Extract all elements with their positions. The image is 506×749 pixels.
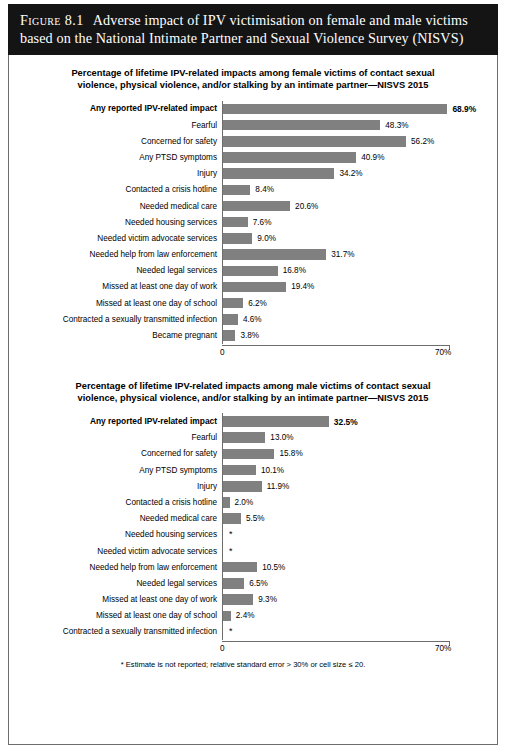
- bar: [223, 201, 290, 212]
- bar-value-label: 5.5%: [241, 514, 265, 523]
- figure-body-frame: Percentage of lifetime IPV-related impac…: [8, 55, 498, 745]
- bar: [223, 104, 447, 115]
- bar-value-label: 9.3%: [253, 595, 277, 604]
- bar-category-label: Missed at least one day of work: [9, 595, 222, 604]
- bar-value-label: 20.6%: [290, 202, 318, 211]
- bar: [223, 481, 262, 492]
- bar: [223, 465, 256, 476]
- chart-panel-female: Percentage of lifetime IPV-related impac…: [9, 55, 497, 358]
- bar-row: Fearful13.0%: [9, 430, 497, 446]
- bar: [223, 562, 257, 573]
- bar: [223, 314, 238, 325]
- bar-category-label: Fearful: [9, 433, 222, 442]
- bar-track: 9.3%: [222, 592, 497, 608]
- chart-title-female-line-2: violence, physical violence, and/or stal…: [51, 79, 455, 91]
- bar-track: 31.7%: [222, 247, 497, 263]
- bar-value-label: 48.3%: [380, 121, 408, 130]
- bar-row: Needed medical care5.5%: [9, 511, 497, 527]
- axis-tick-labels-female: 0 70%: [222, 346, 450, 358]
- bar-value-label: 6.5%: [244, 579, 268, 588]
- bar-value-label: 4.6%: [238, 315, 262, 324]
- bar-value-label: 16.8%: [278, 266, 306, 275]
- axis-line-wrap: 0 70%: [222, 641, 497, 654]
- bar-track: 6.2%: [222, 295, 497, 311]
- x-axis-female: 0 70%: [9, 345, 497, 358]
- bar-row: Needed help from law enforcement10.5%: [9, 559, 497, 575]
- bar-row: Needed medical care20.6%: [9, 198, 497, 214]
- bar-category-label: Needed victim advocate services: [9, 547, 222, 556]
- bar-track: 9.0%: [222, 230, 497, 246]
- bar-category-label: Needed medical care: [9, 514, 222, 523]
- figure-title-line-2: based on the National Intimate Partner a…: [20, 29, 488, 47]
- bar: [223, 578, 244, 589]
- bar: [223, 168, 334, 179]
- figure-title-banner: Figure 8.1Adverse impact of IPV victimis…: [8, 4, 498, 55]
- bar-track: 20.6%: [222, 198, 497, 214]
- bar-category-label: Any PTSD symptoms: [9, 466, 222, 475]
- bar-category-label: Contacted a crisis hotline: [9, 185, 222, 194]
- bar-row: Became pregnant3.8%: [9, 327, 497, 343]
- bar-value-label: 3.8%: [235, 331, 259, 340]
- chart-title-male-line-2: violence, physical violence, and/or stal…: [51, 392, 455, 404]
- bar-row: Needed legal services16.8%: [9, 263, 497, 279]
- bar-track: 32.5%: [222, 413, 497, 429]
- bar-row: Contracted a sexually transmitted infect…: [9, 311, 497, 327]
- bar-value-label: 11.9%: [262, 482, 290, 491]
- bar: [223, 330, 235, 341]
- bar-value-label: 6.2%: [243, 299, 267, 308]
- bar-category-label: Concerned for safety: [9, 449, 222, 458]
- bar-track: 15.8%: [222, 446, 497, 462]
- bar-row: Any PTSD symptoms10.1%: [9, 462, 497, 478]
- bar-row: Any PTSD symptoms40.9%: [9, 149, 497, 165]
- chart-panel-male: Percentage of lifetime IPV-related impac…: [9, 368, 497, 669]
- bar-track: 56.2%: [222, 133, 497, 149]
- bar-track: 34.2%: [222, 166, 497, 182]
- bar-track: *: [222, 543, 497, 559]
- bar-category-label: Needed legal services: [9, 579, 222, 588]
- bar-category-label: Contracted a sexually transmitted infect…: [9, 627, 222, 636]
- bar: [223, 594, 253, 605]
- bar: [223, 432, 265, 443]
- axis-tick-label-max: 70%: [435, 348, 451, 357]
- bar-row: Contracted a sexually transmitted infect…: [9, 624, 497, 640]
- bar-value-label: 32.5%: [329, 417, 358, 427]
- bar-category-label: Missed at least one day of work: [9, 282, 222, 291]
- bar-track: *: [222, 624, 497, 640]
- bar-category-label: Needed legal services: [9, 266, 222, 275]
- bar-value-suppressed: *: [223, 629, 233, 634]
- bar: [223, 611, 231, 622]
- bar-track: 3.8%: [222, 327, 497, 343]
- bar: [223, 185, 250, 196]
- bar-track: 8.4%: [222, 182, 497, 198]
- bar-row: Needed victim advocate services*: [9, 543, 497, 559]
- bar: [223, 416, 329, 427]
- figure-container: Figure 8.1Adverse impact of IPV victimis…: [8, 4, 498, 744]
- bar-row: Injury34.2%: [9, 166, 497, 182]
- bar-track: 2.0%: [222, 494, 497, 510]
- bar: [223, 249, 326, 260]
- bar-row: Contacted a crisis hotline8.4%: [9, 182, 497, 198]
- bar-category-label: Needed housing services: [9, 530, 222, 539]
- bar-track: 68.9%: [222, 101, 497, 117]
- bar-category-label: Missed at least one day of school: [9, 299, 222, 308]
- bar-track: 11.9%: [222, 478, 497, 494]
- bar-row: Any reported IPV-related impact32.5%: [9, 413, 497, 429]
- bar-category-label: Needed victim advocate services: [9, 234, 222, 243]
- bar-value-label: 13.0%: [265, 433, 293, 442]
- bar: [223, 449, 274, 460]
- bar-track: 10.5%: [222, 559, 497, 575]
- bar-track: 5.5%: [222, 511, 497, 527]
- bar-category-label: Any reported IPV-related impact: [9, 104, 222, 113]
- bar-value-suppressed: *: [223, 532, 233, 537]
- bar-category-label: Injury: [9, 169, 222, 178]
- bar-row: Needed victim advocate services9.0%: [9, 230, 497, 246]
- bar-track: 7.6%: [222, 214, 497, 230]
- axis-spacer: [9, 641, 222, 654]
- bar-track: 4.6%: [222, 311, 497, 327]
- bar-row: Missed at least one day of work19.4%: [9, 279, 497, 295]
- axis-spacer: [9, 345, 222, 358]
- bar-value-label: 56.2%: [406, 137, 434, 146]
- axis-tick-label-min: 0: [220, 644, 225, 653]
- bar-row: Injury11.9%: [9, 478, 497, 494]
- bar: [223, 233, 252, 244]
